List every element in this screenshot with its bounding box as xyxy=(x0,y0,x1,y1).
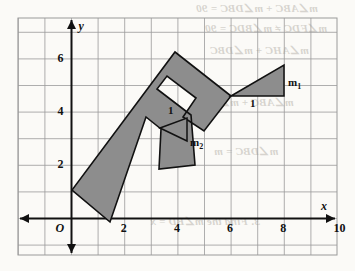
y-tick-label-6: 6 xyxy=(58,51,64,66)
y-tick-label-2: 2 xyxy=(58,157,64,172)
x-tick-label-8: 8 xyxy=(280,221,286,236)
x-axis-label: x xyxy=(321,199,327,214)
x-axis-arrow-left xyxy=(20,214,29,223)
m2-run-label: 1 xyxy=(168,104,174,116)
y-axis-label: y xyxy=(79,19,84,34)
m1-label: m1 xyxy=(288,76,301,91)
origin-label: O xyxy=(56,221,65,236)
x-tick-label-4: 4 xyxy=(174,221,180,236)
y-tick-label-4: 4 xyxy=(58,104,64,119)
y-axis-arrow-up xyxy=(67,20,76,29)
y-axis-arrow-down xyxy=(67,244,76,253)
x-tick-label-2: 2 xyxy=(121,221,127,236)
x-tick-label-10: 10 xyxy=(334,221,346,236)
x-tick-label-6: 6 xyxy=(227,221,233,236)
m2-label: m2 xyxy=(190,136,203,151)
figure-page: m∠ABC + m∠DBC = 90m∠FDC ≠ m∠BDC = 90m∠AH… xyxy=(0,0,355,271)
m1-run-label: 1 xyxy=(250,97,256,109)
